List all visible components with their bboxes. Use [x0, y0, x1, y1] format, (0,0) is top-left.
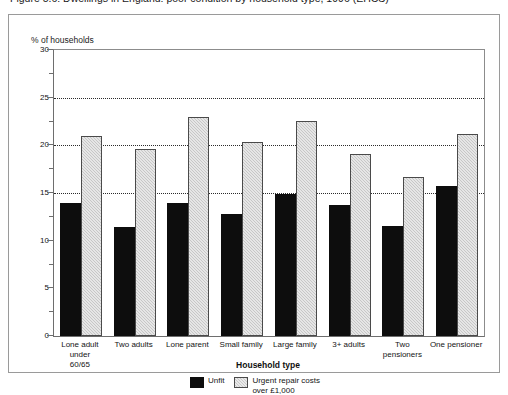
bar-group — [377, 50, 431, 336]
x-axis-tick-label-line: Two pensioners — [376, 340, 430, 360]
x-axis-tick-label-line: 3+ adults — [322, 340, 376, 350]
bar-urgent-repair — [296, 121, 317, 336]
plot-area — [53, 49, 485, 337]
x-axis-tick-label-line: One pensioner — [429, 340, 483, 350]
x-axis-tick-label-line: Large family — [268, 340, 322, 350]
legend-swatch-unfit — [190, 377, 204, 388]
figure-title-text: Figure 5.6: Dwellings in England: poor c… — [10, 0, 498, 5]
figure-title-clipped: Figure 5.6: Dwellings in England: poor c… — [10, 0, 498, 5]
bar-group — [430, 50, 484, 336]
legend-label: Unfit — [208, 376, 224, 386]
x-axis-tick-label-line: Small family — [214, 340, 268, 350]
bar-group — [269, 50, 323, 336]
bar-group — [215, 50, 269, 336]
bar-urgent-repair — [350, 154, 371, 336]
bar-unfit — [436, 186, 457, 336]
legend-item[interactable]: Urgent repair costs over £1,000 — [234, 376, 320, 395]
bar-group — [323, 50, 377, 336]
legend: UnfitUrgent repair costs over £1,000 — [9, 376, 501, 395]
bar-unfit — [382, 226, 403, 336]
bar-urgent-repair — [242, 142, 263, 336]
chart-frame: % of households 051015202530 Lone adult … — [8, 14, 500, 373]
bar-urgent-repair — [403, 177, 424, 336]
bar-unfit — [114, 227, 135, 336]
bar-unfit — [221, 214, 242, 336]
bar-group — [162, 50, 216, 336]
bar-group — [54, 50, 108, 336]
bar-urgent-repair — [81, 136, 102, 336]
bar-unfit — [329, 205, 350, 336]
legend-label: Urgent repair costs over £1,000 — [252, 376, 320, 395]
bar-urgent-repair — [135, 149, 156, 336]
x-axis-title: Household type — [53, 360, 483, 370]
x-axis-tick-label-line: Two adults — [107, 340, 161, 350]
x-axis-tick-label-line: Lone parent — [161, 340, 215, 350]
bar-groups — [54, 50, 484, 336]
bar-group — [108, 50, 162, 336]
bar-urgent-repair — [188, 117, 209, 336]
legend-swatch-urgent-repair — [234, 377, 248, 388]
bar-unfit — [60, 203, 81, 336]
x-axis-tick-label-line: Lone adult under — [53, 340, 107, 360]
legend-item[interactable]: Unfit — [190, 376, 224, 388]
bar-unfit — [167, 203, 188, 336]
bar-unfit — [275, 194, 296, 336]
bar-urgent-repair — [457, 134, 478, 336]
y-axis: 051015202530 — [9, 43, 53, 343]
